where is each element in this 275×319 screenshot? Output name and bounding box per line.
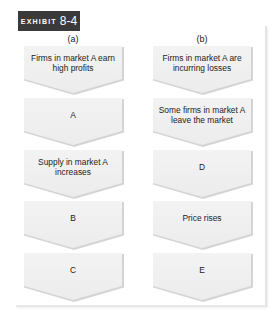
column-a-label: (a) [23,34,123,44]
exhibit-keyword: EXHIBIT [21,18,57,25]
flow-step-text: C [29,253,117,286]
exhibit-badge: EXHIBIT 8-4 [18,11,80,31]
flow-step-text: Price rises [158,201,246,234]
flow-step-text: B [29,201,117,234]
column-b-label: (b) [152,34,252,44]
flow-step-text: A [29,98,117,131]
flow-step-text: E [158,253,246,286]
flow-step-text: Some firms in market A leave the market [158,98,246,131]
flow-step-text: D [158,150,246,183]
exhibit-number: 8-4 [60,14,77,28]
flow-step-text: Firms in market A are incurring losses [158,46,246,79]
flow-step-text: Supply in market A increases [29,150,117,183]
flow-step-text: Firms in market A earn high profits [29,46,117,79]
